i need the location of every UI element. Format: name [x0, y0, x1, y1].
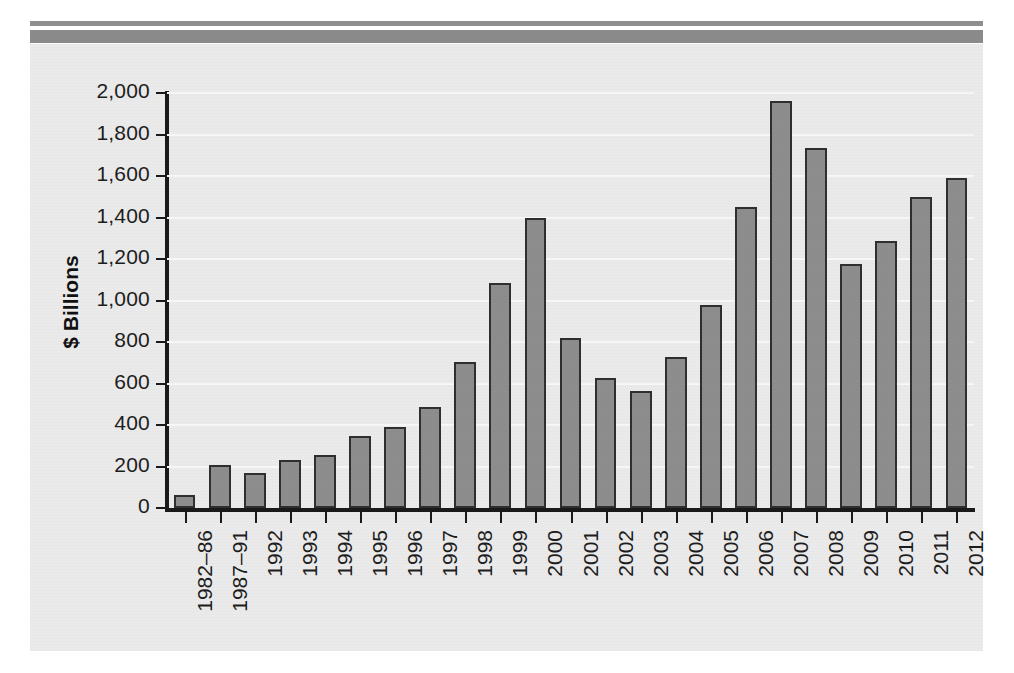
top-rule-thin [30, 21, 983, 26]
x-axis-tick [465, 512, 467, 523]
x-axis-tick-label: 2011 [929, 530, 953, 575]
x-axis-tick [185, 512, 187, 523]
x-axis-tick [816, 512, 818, 523]
gridline [167, 258, 974, 260]
bar [700, 305, 722, 508]
bar [630, 391, 652, 508]
x-axis-tick-label: 2000 [543, 530, 567, 577]
x-axis-tick-label: 1994 [333, 530, 357, 577]
y-axis-tick [156, 341, 166, 343]
bar [770, 101, 792, 508]
y-axis-tick-label: 200 [30, 453, 150, 477]
x-axis-tick [255, 512, 257, 523]
y-axis-tick-label: 0 [30, 494, 150, 518]
y-axis-tick-labels: 2,0001,8001,6001,4001,2001,0008006004002… [30, 44, 150, 651]
x-axis-tick [956, 512, 958, 523]
y-axis-tick-label: 800 [30, 328, 150, 352]
y-axis-tick-label: 1,400 [30, 204, 150, 228]
x-axis-tick-label: 1992 [263, 530, 287, 577]
x-axis-tick-label: 2003 [649, 530, 673, 577]
y-axis-tick-label: 600 [30, 370, 150, 394]
x-axis-tick-label: 1996 [403, 530, 427, 577]
bar [560, 338, 582, 508]
x-axis-tick-label: 2005 [719, 530, 743, 577]
plot-area [167, 93, 974, 508]
gridline [167, 175, 974, 177]
x-axis-tick [360, 512, 362, 523]
x-axis-tick-label: 2012 [964, 530, 988, 577]
page-root: $ Billions 2,0001,8001,6001,4001,2001,00… [0, 0, 1014, 673]
y-axis-tick [156, 217, 166, 219]
x-axis-tick [571, 512, 573, 523]
x-axis-tick-label: 1982–86 [193, 530, 217, 612]
top-rule-thick [30, 30, 983, 43]
x-axis-tick-label: 1995 [368, 530, 392, 577]
y-axis-tick [156, 507, 166, 509]
gridline [167, 134, 974, 136]
bar [840, 264, 862, 508]
y-axis-tick-label: 1,600 [30, 162, 150, 186]
x-axis-tick-label: 1998 [473, 530, 497, 577]
x-axis-tick [500, 512, 502, 523]
y-axis-tick [156, 92, 166, 94]
x-axis-tick [676, 512, 678, 523]
bar [454, 362, 476, 508]
x-axis-tick [395, 512, 397, 523]
x-axis-tick [921, 512, 923, 523]
gridline [167, 217, 974, 219]
x-axis-tick [641, 512, 643, 523]
x-axis-tick-label: 1993 [298, 530, 322, 577]
y-axis-tick-label: 2,000 [30, 79, 150, 103]
x-axis-tick [290, 512, 292, 523]
x-axis-tick-label: 2008 [824, 530, 848, 577]
x-axis-tick-label: 2001 [579, 530, 603, 577]
x-axis-tick-label: 2009 [859, 530, 883, 577]
x-axis-tick [781, 512, 783, 523]
y-axis-tick [156, 134, 166, 136]
bar [349, 436, 371, 508]
x-axis-tick [535, 512, 537, 523]
x-axis-tick-label: 2010 [894, 530, 918, 577]
x-axis-tick [606, 512, 608, 523]
x-axis-tick-label: 1987–91 [228, 530, 252, 612]
bar [279, 460, 301, 508]
bar [735, 207, 757, 508]
bar [595, 378, 617, 508]
x-axis-tick-label: 2002 [614, 530, 638, 577]
chart-panel: $ Billions 2,0001,8001,6001,4001,2001,00… [30, 44, 983, 651]
bar [244, 473, 266, 508]
y-axis-tick [156, 383, 166, 385]
x-axis-tick [711, 512, 713, 523]
y-axis-tick-label: 1,800 [30, 121, 150, 145]
x-axis-tick [851, 512, 853, 523]
y-axis-tick [156, 424, 166, 426]
bar [174, 495, 196, 508]
bar [946, 178, 968, 508]
bar [665, 357, 687, 508]
bar [525, 218, 547, 509]
y-axis-tick-label: 400 [30, 411, 150, 435]
bar [910, 197, 932, 508]
bar [805, 148, 827, 508]
x-axis-tick-label: 1999 [508, 530, 532, 577]
x-axis-tick-label: 2006 [754, 530, 778, 577]
y-axis-tick [156, 175, 166, 177]
bar [489, 283, 511, 508]
y-axis-tick [156, 466, 166, 468]
y-axis-tick [156, 258, 166, 260]
x-axis-tick [220, 512, 222, 523]
x-axis-tick [746, 512, 748, 523]
x-axis-tick-label: 1997 [438, 530, 462, 577]
bar [875, 241, 897, 508]
y-axis-tick-label: 1,200 [30, 245, 150, 269]
y-axis-tick [156, 300, 166, 302]
x-axis-tick [430, 512, 432, 523]
bar [384, 427, 406, 508]
bar [209, 465, 231, 508]
x-axis-tick [886, 512, 888, 523]
gridline [167, 92, 974, 94]
bar [314, 455, 336, 508]
y-axis-tick-label: 1,000 [30, 287, 150, 311]
bar [419, 407, 441, 508]
x-axis-tick-label: 2007 [789, 530, 813, 577]
